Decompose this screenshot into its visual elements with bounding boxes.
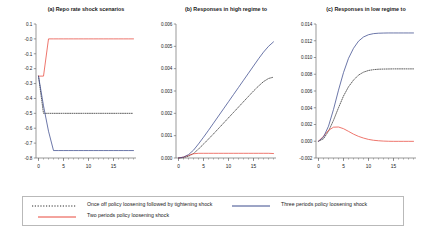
y-axis-tick-label: -0.1 (24, 52, 32, 57)
y-axis-tick-label: 0.010 (301, 55, 313, 60)
x-axis-tick-label: 15 (111, 164, 117, 169)
y-axis-tick-label: 0.014 (301, 22, 313, 27)
legend-swatch-two-periods-solid-icon (37, 214, 77, 220)
legend-item-two-periods (37, 214, 77, 220)
x-axis-tick-label: 15 (251, 164, 257, 169)
series-line (319, 33, 414, 141)
series-line (39, 76, 134, 113)
y-axis-tick-label: 0.004 (301, 106, 313, 111)
panel-a-repo-rate-shock-scenario: (a) Repo rate shock scenarios0.1-0.0-0.1… (2, 0, 142, 192)
y-axis-tick-label: 0.003 (161, 89, 173, 94)
x-axis-tick-label: 0 (317, 164, 320, 169)
figure-repo-rate-shock: (a) Repo rate shock scenarios0.1-0.0-0.1… (0, 0, 424, 231)
legend-label-once-off: Once off policy loosening followed by ti… (87, 201, 212, 207)
series-line (179, 42, 274, 158)
panel-title: (a) Repo rate shock scenarios (48, 6, 125, 12)
y-axis-tick-label: 0.002 (161, 111, 173, 116)
y-axis-tick-label: -0.4 (24, 96, 32, 101)
legend-item-three-periods (231, 203, 271, 209)
y-axis-tick-label: -0.7 (24, 141, 32, 146)
series-line (179, 153, 274, 158)
panel-grid: (a) Repo rate shock scenarios0.1-0.0-0.1… (0, 0, 424, 192)
y-axis-tick-label: -0.8 (24, 156, 32, 161)
y-axis-tick-label: 0.004 (161, 66, 173, 71)
x-axis-tick-label: 10 (226, 164, 232, 169)
legend-swatch-once-off-dotted-icon (31, 203, 77, 209)
series-line (179, 77, 274, 158)
y-axis-tick-label: 0.000 (161, 156, 173, 161)
y-axis-tick-label: 0.012 (301, 39, 313, 44)
legend-label-two-periods: Two periods policy loosening shock (87, 212, 169, 218)
y-axis-tick-label: -0.0 (24, 37, 32, 42)
panel-c-responses-low-regime: (c) Responses in low regime to-0.0020.00… (282, 0, 422, 192)
x-axis-tick-label: 10 (86, 164, 92, 169)
y-axis-tick-label: 0.005 (161, 44, 173, 49)
y-axis-tick-label: 0.001 (161, 133, 173, 138)
legend-swatch-three-periods-solid-icon (231, 203, 271, 209)
x-axis-tick-label: 5 (62, 164, 65, 169)
x-axis-tick-label: 5 (202, 164, 205, 169)
series-line (39, 39, 134, 76)
y-axis-tick-label: 0.006 (301, 89, 313, 94)
series-line (319, 69, 414, 141)
legend: Once off policy loosening followed by ti… (22, 196, 404, 226)
y-axis-tick-label: 0.008 (301, 72, 313, 77)
y-axis-tick-label: -0.3 (24, 81, 32, 86)
legend-label-three-periods: Three periods policy loosening shock (281, 201, 367, 207)
panel-title: (b) Responses in high regime to (185, 6, 268, 12)
x-axis-tick-label: 0 (37, 164, 40, 169)
legend-item-once-off (31, 203, 77, 209)
x-axis-tick-label: 0 (177, 164, 180, 169)
y-axis-tick-label: 0.002 (301, 122, 313, 127)
panel-b-responses-high-regime: (b) Responses in high regime to0.0000.00… (142, 0, 282, 192)
y-axis-tick-label: -0.5 (24, 111, 32, 116)
y-axis-tick-label: -0.002 (299, 156, 312, 161)
y-axis-tick-label: -0.6 (24, 126, 32, 131)
panel-title: (c) Responses in low regime to (326, 6, 406, 12)
x-axis-tick-label: 10 (366, 164, 372, 169)
y-axis-tick-label: 0.000 (301, 139, 313, 144)
series-line (319, 127, 414, 141)
y-axis-tick-label: -0.2 (24, 66, 32, 71)
y-axis-tick-label: 0.006 (161, 22, 173, 27)
x-axis-tick-label: 5 (342, 164, 345, 169)
x-axis-tick-label: 15 (391, 164, 397, 169)
y-axis-tick-label: 0.1 (26, 22, 33, 27)
